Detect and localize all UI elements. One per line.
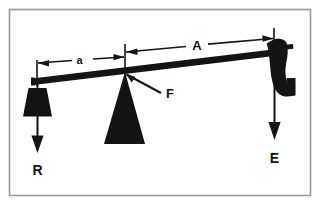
resistance-label: R bbox=[32, 162, 42, 178]
long-arm-label: A bbox=[192, 38, 202, 53]
effort-label: E bbox=[270, 150, 279, 166]
diagram-canvas: a A F bbox=[0, 0, 320, 205]
fulcrum-label: F bbox=[166, 86, 174, 101]
lever-diagram-figure: a A F bbox=[0, 0, 320, 205]
short-arm-label: a bbox=[76, 54, 83, 66]
